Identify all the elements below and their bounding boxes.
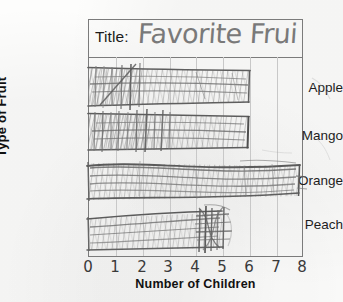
gridline-1 — [116, 57, 117, 256]
gridline-3 — [170, 57, 171, 256]
y-axis-title: Type of Fruit — [0, 77, 9, 157]
category-label-peach: Peach — [257, 217, 343, 232]
x-tick-1: 1 — [110, 258, 120, 276]
x-tick-7: 7 — [271, 258, 281, 276]
gridline-2 — [143, 57, 144, 256]
x-axis-title: Number of Children — [88, 277, 303, 291]
category-label-apple: Apple — [257, 80, 343, 95]
category-label-orange: Orange — [257, 173, 343, 188]
handwritten-title-text: Favorite Frui — [137, 18, 298, 49]
x-tick-4: 4 — [190, 258, 200, 276]
gridline-4 — [196, 57, 197, 256]
x-tick-8: 8 — [297, 258, 307, 276]
gridline-6 — [250, 57, 251, 256]
title-prompt-label: Title: — [95, 28, 129, 46]
x-tick-5: 5 — [217, 258, 227, 276]
category-label-mango: Mango — [257, 128, 343, 143]
worksheet-page: Title: Favorite Frui Apple Mango Orange … — [0, 0, 343, 302]
x-tick-2: 2 — [137, 258, 147, 276]
x-tick-6: 6 — [244, 258, 254, 276]
x-tick-3: 3 — [163, 258, 173, 276]
x-tick-0: 0 — [83, 258, 93, 276]
gridline-5 — [223, 57, 224, 256]
